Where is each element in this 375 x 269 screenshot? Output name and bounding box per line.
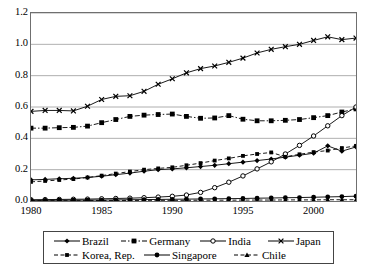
data-point [155, 253, 160, 258]
data-point [254, 158, 259, 163]
data-point [255, 118, 260, 123]
data-point [226, 161, 231, 166]
data-point [170, 165, 174, 169]
legend-key-icon [52, 235, 82, 247]
data-point [31, 126, 33, 131]
chart-svg [31, 13, 356, 201]
data-point [340, 146, 344, 150]
legend-item-korea-rep[interactable]: Korea, Rep. [52, 249, 134, 261]
legend-key-icon [232, 249, 262, 261]
data-point [142, 168, 146, 172]
legend-label: Brazil [82, 236, 109, 247]
data-point [57, 178, 61, 182]
y-axis: 0.00.20.40.60.81.01.2 [0, 12, 28, 202]
x-axis-label: 1985 [91, 205, 112, 216]
legend-key-icon [266, 235, 296, 247]
data-point [65, 253, 69, 257]
y-axis-label: 1.2 [2, 7, 28, 17]
data-point [255, 167, 259, 171]
data-point [57, 125, 62, 130]
data-point [298, 152, 302, 156]
x-axis-label: 1995 [232, 205, 253, 216]
data-point [31, 180, 33, 184]
legend-label: Singapore [172, 250, 217, 261]
chart-legend: BrazilGermanyIndiaJapan Korea, Rep.Singa… [43, 231, 334, 264]
data-point [156, 82, 161, 87]
data-point [326, 149, 330, 153]
data-point [212, 163, 217, 168]
data-point [85, 104, 90, 109]
data-point [255, 152, 259, 156]
series-line [31, 109, 356, 128]
legend-item-india[interactable]: India [198, 235, 257, 247]
data-point [227, 180, 231, 184]
data-point [132, 239, 137, 244]
y-axis-label: 0.4 [2, 132, 28, 142]
data-point [71, 125, 76, 130]
data-point [128, 114, 133, 119]
data-point [85, 124, 90, 129]
data-point [213, 159, 217, 163]
series-line [31, 37, 356, 112]
legend-item-singapore[interactable]: Singapore [142, 249, 224, 261]
legend-label: Japan [296, 236, 321, 247]
data-point [156, 167, 160, 171]
data-point [269, 151, 273, 155]
y-axis-label: 0.2 [2, 164, 28, 174]
data-point [340, 113, 344, 117]
legend-item-germany[interactable]: Germany [119, 235, 190, 247]
legend-row: BrazilGermanyIndiaJapan [44, 234, 333, 248]
legend-label: Korea, Rep. [82, 250, 135, 261]
data-point [184, 193, 188, 197]
data-point [269, 160, 273, 164]
data-point [128, 170, 132, 174]
series-line [31, 146, 356, 180]
x-axis: 19801985199019952000 [30, 205, 357, 219]
data-point [184, 70, 189, 75]
legend-row: Korea, Rep.SingaporeChile [44, 248, 333, 262]
data-point [354, 144, 356, 148]
data-point [212, 185, 216, 189]
series-line [31, 107, 356, 200]
legend-item-japan[interactable]: Japan [266, 235, 325, 247]
data-point [325, 113, 330, 118]
legend-label: India [228, 236, 251, 247]
data-point [199, 161, 203, 165]
data-point [354, 105, 356, 109]
data-point [43, 126, 48, 131]
legend-label: Germany [149, 236, 190, 247]
data-point [311, 134, 315, 138]
data-point [114, 172, 118, 176]
legend-key-icon [142, 249, 172, 261]
data-point [241, 117, 246, 122]
y-axis-label: 0.8 [2, 70, 28, 80]
x-axis-label: 1980 [21, 205, 42, 216]
data-point [185, 163, 189, 167]
data-point [241, 56, 246, 61]
data-point [241, 154, 245, 158]
plot-area [30, 12, 357, 202]
data-point [212, 116, 217, 121]
legend-key-icon [119, 235, 149, 247]
series-brazil [31, 143, 356, 182]
y-axis-label: 0.6 [2, 101, 28, 111]
data-point [170, 112, 175, 117]
data-point [100, 174, 104, 178]
data-point [297, 117, 302, 122]
legend-item-chile[interactable]: Chile [232, 249, 314, 261]
data-point [283, 155, 287, 159]
legend-item-brazil[interactable]: Brazil [52, 235, 111, 247]
data-point [312, 150, 316, 154]
y-axis-label: 0.0 [2, 195, 28, 205]
legend-key-icon [52, 249, 82, 261]
data-point [86, 176, 90, 180]
legend-label: Chile [262, 250, 286, 261]
series-germany [31, 106, 356, 130]
chart-container: 0.00.20.40.60.81.01.2 198019851990199520… [0, 0, 375, 269]
data-point [226, 113, 231, 118]
data-point [311, 115, 316, 120]
data-point [156, 112, 161, 117]
x-axis-label: 2000 [303, 205, 324, 216]
data-point [71, 177, 75, 181]
data-point [240, 160, 245, 165]
